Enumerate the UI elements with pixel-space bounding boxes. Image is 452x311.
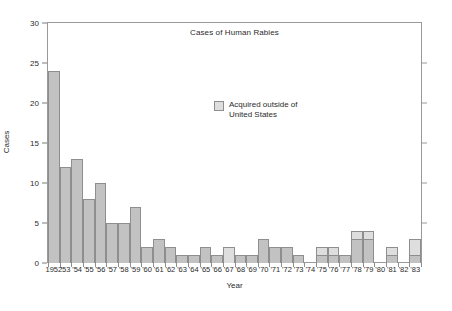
x-tick-label-65: '65 [200, 265, 210, 274]
y-tick-label-30: 30 [30, 19, 39, 28]
x-tick-label-55: '55 [84, 265, 94, 274]
bar-62 [165, 247, 177, 263]
bar-79 [363, 231, 375, 263]
y-right-tick-25 [422, 63, 427, 64]
bar-69 [246, 255, 258, 263]
x-tick-label-58: '58 [119, 265, 129, 274]
bar-54 [71, 159, 83, 263]
bar-73 [293, 255, 305, 263]
x-tick-label-81: '81 [387, 265, 397, 274]
bar-segment-domestic [363, 239, 375, 263]
bar-segment-acquired-outside [386, 247, 398, 255]
bar-segment-domestic [293, 255, 305, 263]
bar-57 [106, 223, 118, 263]
x-tick-label-57: '57 [107, 265, 117, 274]
y-tick-label-10: 10 [30, 179, 39, 188]
bar-76 [328, 247, 340, 263]
bar-segment-acquired-outside [328, 247, 340, 255]
bar-56 [95, 183, 107, 263]
bar-segment-acquired-outside [409, 239, 421, 255]
bar-segment-domestic [200, 247, 212, 263]
bar-78 [351, 231, 363, 263]
bar-segment-acquired-outside [316, 247, 328, 255]
bar-segment-domestic [211, 255, 223, 263]
bar-53 [60, 167, 72, 263]
x-tick-label-80: '80 [375, 265, 385, 274]
x-tick-label-74: '74 [305, 265, 315, 274]
bar-70 [258, 239, 270, 263]
bar-segment-domestic [48, 71, 60, 263]
y-right-tick-20 [422, 103, 427, 104]
bar-segment-domestic [130, 207, 142, 263]
bar-55 [83, 199, 95, 263]
x-tick-label-73: '73 [294, 265, 304, 274]
x-tick-label-66: '66 [212, 265, 222, 274]
y-right-tick-5 [422, 223, 427, 224]
bar-segment-domestic [118, 223, 130, 263]
bar-segment-acquired-outside [223, 247, 235, 263]
x-axis-title: Year [47, 281, 422, 290]
bar-77 [339, 255, 351, 263]
x-tick-label-76: '76 [329, 265, 339, 274]
x-tick-label-79: '79 [364, 265, 374, 274]
legend: Acquired outside of United States [214, 100, 298, 119]
y-tick-label-25: 25 [30, 59, 39, 68]
chart-container: Cases of Human Rabies Cases 051015202530… [0, 0, 452, 311]
y-tick-mark-5 [42, 223, 47, 224]
bar-segment-domestic [95, 183, 107, 263]
bar-83 [409, 239, 421, 263]
bar-segment-domestic [188, 255, 200, 263]
x-tick-label-53: '53 [61, 265, 71, 274]
bar-segment-domestic [60, 167, 72, 263]
bar-segment-domestic [176, 255, 188, 263]
x-tick-label-75: '75 [317, 265, 327, 274]
bar-segment-domestic [386, 255, 398, 263]
bar-segment-domestic [106, 223, 118, 263]
x-tick-label-70: '70 [259, 265, 269, 274]
bar-segment-domestic [316, 255, 328, 263]
bar-segment-domestic [235, 255, 247, 263]
bar-segment-domestic [141, 247, 153, 263]
bar-segment-domestic [339, 255, 351, 263]
y-right-tick-15 [422, 143, 427, 144]
bar-segment-domestic [71, 159, 83, 263]
bar-68 [235, 255, 247, 263]
bar-59 [130, 207, 142, 263]
bar-67 [223, 247, 235, 263]
y-axis: 051015202530 [0, 0, 47, 283]
bar-75 [316, 247, 328, 263]
bars-layer [48, 23, 421, 263]
x-tick-label-62: '62 [166, 265, 176, 274]
bar-segment-domestic [328, 255, 340, 263]
x-tick-label-63: '63 [177, 265, 187, 274]
y-tick-label-20: 20 [30, 99, 39, 108]
bar-segment-domestic [281, 247, 293, 263]
x-tick-label-72: '72 [282, 265, 292, 274]
bar-58 [118, 223, 130, 263]
x-tick-label-61: '61 [154, 265, 164, 274]
bar-81 [386, 247, 398, 263]
bar-segment-domestic [351, 239, 363, 263]
x-tick-label-69: '69 [247, 265, 257, 274]
bar-segment-domestic [165, 247, 177, 263]
y-tick-mark-15 [42, 143, 47, 144]
x-tick-label-56: '56 [96, 265, 106, 274]
bar-segment-domestic [269, 247, 281, 263]
x-tick-label-67: '67 [224, 265, 234, 274]
x-tick-label-59: '59 [131, 265, 141, 274]
x-tick-label-71: '71 [270, 265, 280, 274]
y-tick-mark-30 [42, 23, 47, 24]
x-tick-label-82: '82 [399, 265, 409, 274]
bar-segment-domestic [83, 199, 95, 263]
legend-swatch-acquired-outside [214, 101, 224, 111]
bar-1952 [48, 71, 60, 263]
bar-65 [200, 247, 212, 263]
x-tick-label-64: '64 [189, 265, 199, 274]
y-tick-mark-10 [42, 183, 47, 184]
bar-60 [141, 247, 153, 263]
x-tick-label-78: '78 [352, 265, 362, 274]
y-tick-mark-20 [42, 103, 47, 104]
y-tick-label-5: 5 [35, 219, 39, 228]
bar-61 [153, 239, 165, 263]
bar-66 [211, 255, 223, 263]
